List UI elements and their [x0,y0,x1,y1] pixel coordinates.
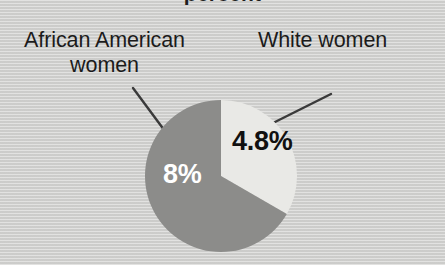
chart-title-cropped: percent [0,0,445,8]
label-white-women: White women [258,28,438,53]
label-african-american-women: African American women [2,28,207,78]
label-african-american-women-line2: women [2,53,207,78]
pie-chart-figure: percent African American women White wom… [0,0,445,265]
label-african-american-women-line1: African American [2,28,207,53]
pie-value-african-american-women: 8% [163,159,201,190]
pie-value-white-women: 4.8% [232,126,292,157]
chart-title-text: percent [0,0,445,6]
